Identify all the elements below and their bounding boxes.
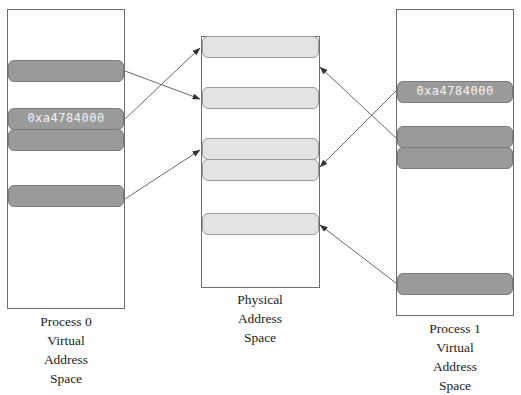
mapping-arrow	[125, 150, 200, 199]
mapping-arrow	[320, 225, 396, 283]
mapping-arrow	[125, 48, 200, 119]
mapping-arrow	[125, 71, 200, 99]
